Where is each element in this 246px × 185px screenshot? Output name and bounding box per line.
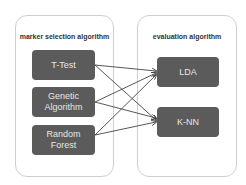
edge-random-knn — [95, 122, 156, 135]
edge-ttest-lda — [95, 65, 156, 71]
edge-random-lda — [95, 75, 156, 135]
edges — [0, 0, 246, 185]
edge-ttest-knn — [95, 65, 156, 120]
edge-genetic-lda — [95, 73, 156, 102]
